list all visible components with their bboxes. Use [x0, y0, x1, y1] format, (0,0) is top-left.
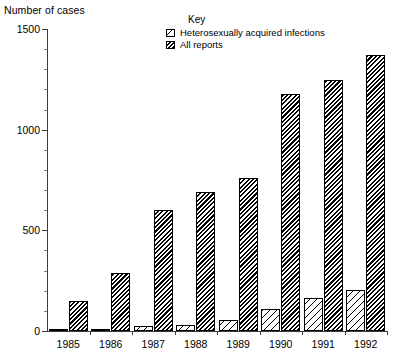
x-axis-tick-label: 1989 — [227, 339, 250, 350]
y-tick-minor — [44, 89, 47, 90]
x-axis-tick-label: 1988 — [184, 339, 207, 350]
x-axis-tick-label: 1985 — [57, 339, 80, 350]
plot-area: 050010001500 198519861987198819891990199… — [47, 29, 387, 331]
bar-heterosexual-1991 — [304, 298, 323, 331]
y-axis-tick-label: 500 — [22, 225, 40, 236]
x-axis-tick-label: 1987 — [142, 339, 165, 350]
x-axis-tick-label: 1992 — [354, 339, 377, 350]
y-axis-tick-label: 1000 — [17, 124, 40, 135]
y-tick-major — [42, 230, 47, 231]
y-tick-minor — [44, 49, 47, 50]
y-tick-minor — [44, 311, 47, 312]
bar-all-reports-1985 — [69, 301, 88, 331]
x-tick — [90, 331, 91, 335]
bar-heterosexual-1989 — [219, 320, 238, 331]
y-tick-minor — [44, 170, 47, 171]
y-tick-minor — [44, 210, 47, 211]
y-axis-title: Number of cases — [4, 4, 85, 16]
y-axis-line — [47, 29, 48, 331]
y-tick-major — [42, 29, 47, 30]
x-tick — [217, 331, 218, 335]
bar-all-reports-1989 — [239, 178, 258, 331]
y-tick-minor — [44, 271, 47, 272]
bar-all-reports-1986 — [111, 273, 130, 331]
y-axis-tick-label: 1500 — [17, 24, 40, 35]
bar-heterosexual-1986 — [91, 329, 110, 331]
y-tick-minor — [44, 69, 47, 70]
y-tick-major — [42, 331, 47, 332]
bar-all-reports-1988 — [196, 192, 215, 331]
legend-title: Key — [188, 14, 325, 25]
y-tick-major — [42, 130, 47, 131]
x-axis-tick-label: 1990 — [269, 339, 292, 350]
bar-all-reports-1990 — [281, 94, 300, 331]
x-tick — [387, 331, 388, 335]
y-tick-minor — [44, 190, 47, 191]
x-tick — [260, 331, 261, 335]
bar-all-reports-1987 — [154, 210, 173, 331]
bar-heterosexual-1987 — [134, 326, 153, 331]
x-axis-tick-label: 1986 — [99, 339, 122, 350]
bar-chart: Number of cases Key Heterosexually acqui… — [0, 0, 395, 361]
y-axis-tick-label: 0 — [34, 326, 40, 337]
x-tick — [175, 331, 176, 335]
x-axis-tick-label: 1991 — [312, 339, 335, 350]
bar-heterosexual-1990 — [261, 309, 280, 331]
y-tick-minor — [44, 250, 47, 251]
y-tick-minor — [44, 150, 47, 151]
y-tick-minor — [44, 110, 47, 111]
bar-heterosexual-1985 — [49, 329, 68, 331]
bar-all-reports-1992 — [366, 55, 385, 331]
bar-all-reports-1991 — [324, 80, 343, 331]
x-tick — [345, 331, 346, 335]
bar-heterosexual-1992 — [346, 290, 365, 331]
bar-heterosexual-1988 — [176, 325, 195, 331]
x-tick — [302, 331, 303, 335]
x-tick — [132, 331, 133, 335]
y-tick-minor — [44, 291, 47, 292]
